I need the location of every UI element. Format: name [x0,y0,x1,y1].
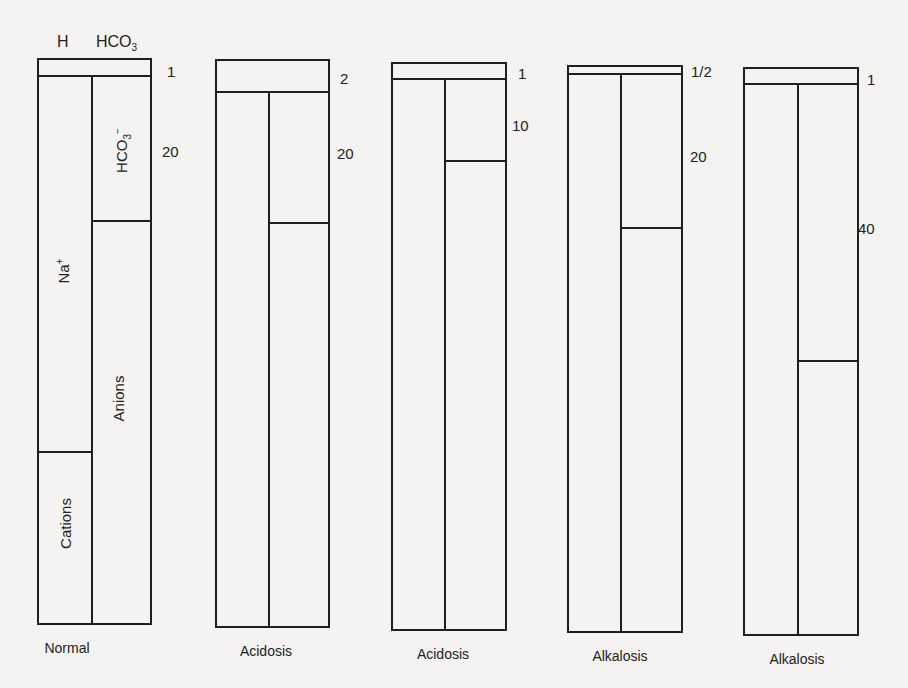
ratio-top: 2 [340,70,348,87]
carbonic-acid-divider [215,91,330,93]
bicarbonate-divider [620,227,683,229]
ratio-hco3: 20 [162,143,179,160]
column-box [215,59,330,628]
ratio-top: 1/2 [691,63,712,80]
carbonic-acid-divider [743,83,859,85]
column-box [391,62,507,631]
h-label: H [57,33,69,51]
cations-label: Cations [57,498,74,549]
hco3-header-label: HCO3 [96,33,137,53]
column-box [37,58,152,625]
ratio-top: 1 [518,65,526,82]
bicarbonate-divider [91,220,152,222]
bicarbonate-divider [797,360,859,362]
column-box [567,65,683,633]
bicarbonate-divider [268,222,330,224]
cation-anion-divider [268,91,270,628]
sodium-label: Na+ [54,258,72,283]
ratio-hco3: 20 [337,145,354,162]
column-caption: Acidosis [226,643,306,659]
hco3-header-text: HCO [96,33,132,50]
hco3-inner-label: HCO3− [112,128,133,173]
cation-anion-divider [91,75,93,625]
column-caption: Alkalosis [577,648,663,664]
bicarbonate-divider [444,160,507,162]
ratio-hco3: 10 [512,117,529,134]
ratio-hco3: 40 [858,220,875,237]
hco3-header-subscript: 3 [132,42,138,53]
column-caption: Alkalosis [754,651,840,667]
ratio-hco3: 20 [690,148,707,165]
sodium-divider [37,451,91,453]
carbonic-acid-divider [391,78,507,80]
cation-anion-divider [620,73,622,633]
carbonic-acid-divider [37,75,152,77]
anions-label: Anions [110,376,127,422]
column-caption: Acidosis [403,646,483,662]
column-caption: Normal [34,640,100,656]
carbonic-acid-divider [567,73,683,75]
column-box [743,67,859,636]
ratio-top: 1 [167,63,175,80]
ratio-top: 1 [867,71,875,88]
